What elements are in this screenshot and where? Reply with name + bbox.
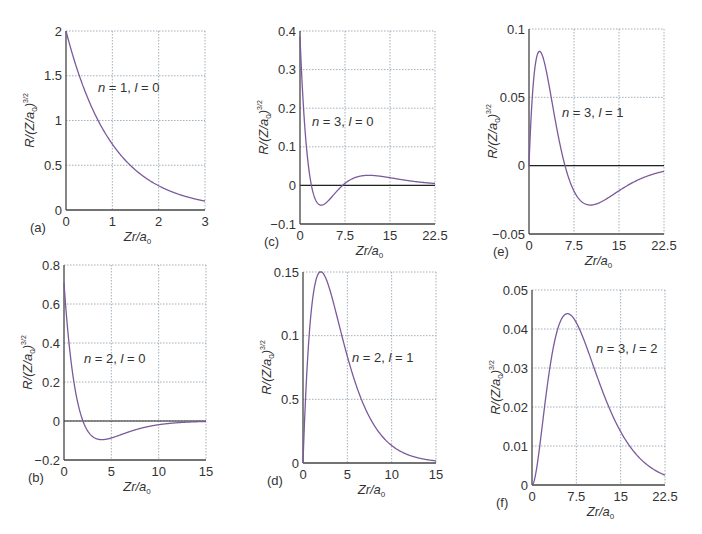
radial-wavefunction-figure: 00.511.520123Zr/a0R/(Z/a0)3/2(a)n = 1, l… [0,0,702,534]
y-tick-label: −0.2 [34,453,60,468]
grid [303,272,436,463]
y-tick-label: 0.05 [503,283,528,298]
y-tick-label: 0.03 [503,361,528,376]
x-axis-label: Zr/a0 [586,504,615,521]
y-tick-label: 0.04 [503,322,528,337]
panel-label: (a) [30,220,46,235]
quantum-number-annotation: n = 3, l = 1 [562,105,623,120]
panel-label: (c) [264,234,279,249]
x-tick-label: 0 [60,464,67,479]
x-tick-label: 22.5 [422,228,447,243]
x-axis-label: Zr/a0 [355,243,384,260]
quantum-number-annotation: n = 2, l = 0 [84,351,145,366]
y-tick-label: 0.4 [278,24,296,39]
x-tick-label: 7.5 [567,489,585,504]
y-tick-label: −0.1 [270,217,296,232]
y-tick-label: 0.1 [281,328,299,343]
y-tick-label: 2 [55,24,62,39]
x-axis-label: Zr/a0 [584,253,613,270]
x-tick-label: 7.5 [565,238,583,253]
y-tick-label: 0.2 [278,101,296,116]
y-tick-label: 0.05 [500,90,525,105]
x-tick-label: 0 [296,228,303,243]
x-tick-label: 15 [612,238,626,253]
x-axis-label: Zr/a0 [123,229,152,246]
x-axis-label: Zr/a0 [122,479,151,496]
radial-curve [303,272,436,463]
panel-label: (b) [28,470,44,485]
y-tick-label: 0 [521,478,528,493]
x-tick-label: 22.5 [652,489,677,504]
x-tick-label: 2 [155,214,162,229]
quantum-number-annotation: n = 3, l = 0 [312,114,373,129]
panel-f: 00.010.020.030.040.0507.51522.5Zr/a0R/(Z… [488,283,678,522]
y-tick-label: 0.15 [274,265,299,280]
panel-b: −0.200.20.40.60.8051015Zr/a0R/(Z/a0)3/2(… [20,258,213,497]
y-tick-label: 1.5 [44,68,62,83]
panel-e: −0.0500.050.107.51522.5Zr/a0R/(Z/a0)3/2(… [485,22,677,271]
x-tick-label: 0 [299,467,306,482]
y-tick-label: 0.3 [278,62,296,77]
x-tick-label: 5 [344,467,351,482]
y-axis-label: R/(Z/a0)3/2 [259,340,276,395]
panel-label: (f) [496,495,508,510]
x-tick-label: 15 [429,467,443,482]
y-tick-label: 0.1 [507,22,525,37]
y-tick-label: 0.5 [44,158,62,173]
y-tick-label: 0.1 [278,139,296,154]
panel-c: −0.100.10.20.30.407.51522.5Zr/a0R/(Z/a0)… [256,24,448,261]
x-tick-label: 22.5 [651,238,676,253]
y-axis-label: R/(Z/a0)3/2 [256,100,273,155]
x-tick-label: 10 [384,467,398,482]
panel-a: 00.511.520123Zr/a0R/(Z/a0)3/2(a)n = 1, l… [22,24,209,247]
y-tick-label: 0.6 [42,297,60,312]
y-tick-label: 0.02 [503,400,528,415]
y-tick-label: 0.01 [503,439,528,454]
x-axis-label: Zr/a0 [357,482,386,499]
panel-label: (e) [493,244,509,259]
y-tick-label: 0 [55,203,62,218]
x-tick-label: 15 [383,228,397,243]
y-tick-label: 0.2 [42,375,60,390]
x-tick-label: 0 [528,489,535,504]
x-tick-label: 0 [62,214,69,229]
x-tick-label: 0 [525,238,532,253]
grid [66,31,205,210]
y-tick-label: 0 [518,158,525,173]
grid [529,29,664,234]
x-tick-label: 5 [108,464,115,479]
y-tick-label: 0 [292,456,299,471]
y-tick-label: 1 [55,113,62,128]
radial-curve [66,31,205,201]
y-tick-label: 0 [289,178,296,193]
y-axis-label: R/(Z/a0)3/2 [485,104,502,159]
quantum-number-annotation: n = 1, l = 0 [98,80,159,95]
quantum-number-annotation: n = 2, l = 1 [352,350,413,365]
x-tick-label: 15 [613,489,627,504]
radial-curve [532,314,665,485]
x-tick-label: 10 [151,464,165,479]
x-tick-label: 15 [199,464,213,479]
panel-d: 00.50.10.15051015Zr/a0R/(Z/a0)3/2(d)n = … [259,265,443,500]
y-tick-label: 0.8 [42,258,60,273]
x-tick-label: 1 [109,214,116,229]
y-axis-label: R/(Z/a0)3/2 [20,335,37,390]
y-tick-label: 0 [53,414,60,429]
y-tick-label: 0.4 [42,336,60,351]
x-tick-label: 3 [201,214,208,229]
y-axis-label: R/(Z/a0)3/2 [22,93,39,148]
grid [532,290,665,485]
quantum-number-annotation: n = 3, l = 2 [596,341,657,356]
y-tick-label: −0.05 [492,227,525,242]
radial-curve [529,51,664,205]
x-tick-label: 7.5 [336,228,354,243]
y-tick-label: 0.5 [281,392,299,407]
panel-label: (d) [267,473,283,488]
